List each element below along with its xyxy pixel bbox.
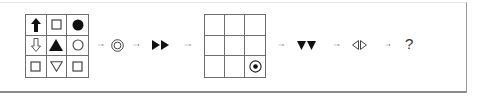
grid1-cell-1-3 <box>67 15 88 36</box>
arrow-right-icon <box>127 44 146 46</box>
square-outline-icon <box>72 61 83 72</box>
grid2-cell-2-3 <box>245 36 265 57</box>
result-grid <box>204 14 266 78</box>
down-arrow-outline-icon <box>31 38 41 52</box>
grid2-cell-3-1 <box>205 56 225 77</box>
grid2-cell-1-1 <box>205 15 225 36</box>
grid2-cell-2-2 <box>225 36 245 57</box>
up-arrow-filled-icon <box>31 18 41 32</box>
two-right-triangles-filled-icon <box>152 40 169 50</box>
arrow-right-icon <box>178 44 198 46</box>
circle-outline-icon <box>72 39 84 51</box>
arrow-right-icon <box>328 44 346 46</box>
grid2-cell-3-2 <box>225 56 245 77</box>
triangle-down-outline-icon <box>50 61 63 72</box>
triangle-up-filled-icon <box>49 39 63 51</box>
grid1-cell-2-1 <box>26 36 47 57</box>
grid2-cell-2-1 <box>205 36 225 57</box>
source-grid <box>25 14 89 78</box>
left-right-triangles-outline-icon <box>352 40 367 50</box>
arrow-right-icon <box>92 44 110 46</box>
double-circle-icon <box>111 39 124 52</box>
grid2-cell-1-3 <box>245 15 265 36</box>
grid2-cell-1-2 <box>225 15 245 36</box>
dotted-circle-icon <box>249 60 262 73</box>
circle-filled-icon <box>72 19 84 31</box>
square-outline-icon <box>51 19 62 30</box>
grid2-cell-3-3 <box>245 56 265 77</box>
grid1-cell-3-3 <box>67 56 88 77</box>
square-outline-icon <box>30 61 41 72</box>
grid1-cell-2-2 <box>47 36 68 57</box>
two-down-triangles-filled-icon <box>297 41 316 50</box>
grid1-cell-1-1 <box>26 15 47 36</box>
grid1-cell-2-3 <box>67 36 88 57</box>
arrow-right-icon <box>273 44 290 46</box>
grid1-cell-3-1 <box>26 56 47 77</box>
question-mark: ? <box>405 35 413 52</box>
grid1-cell-3-2 <box>47 56 68 77</box>
grid1-cell-1-2 <box>47 15 68 36</box>
arrow-right-icon <box>380 44 396 46</box>
